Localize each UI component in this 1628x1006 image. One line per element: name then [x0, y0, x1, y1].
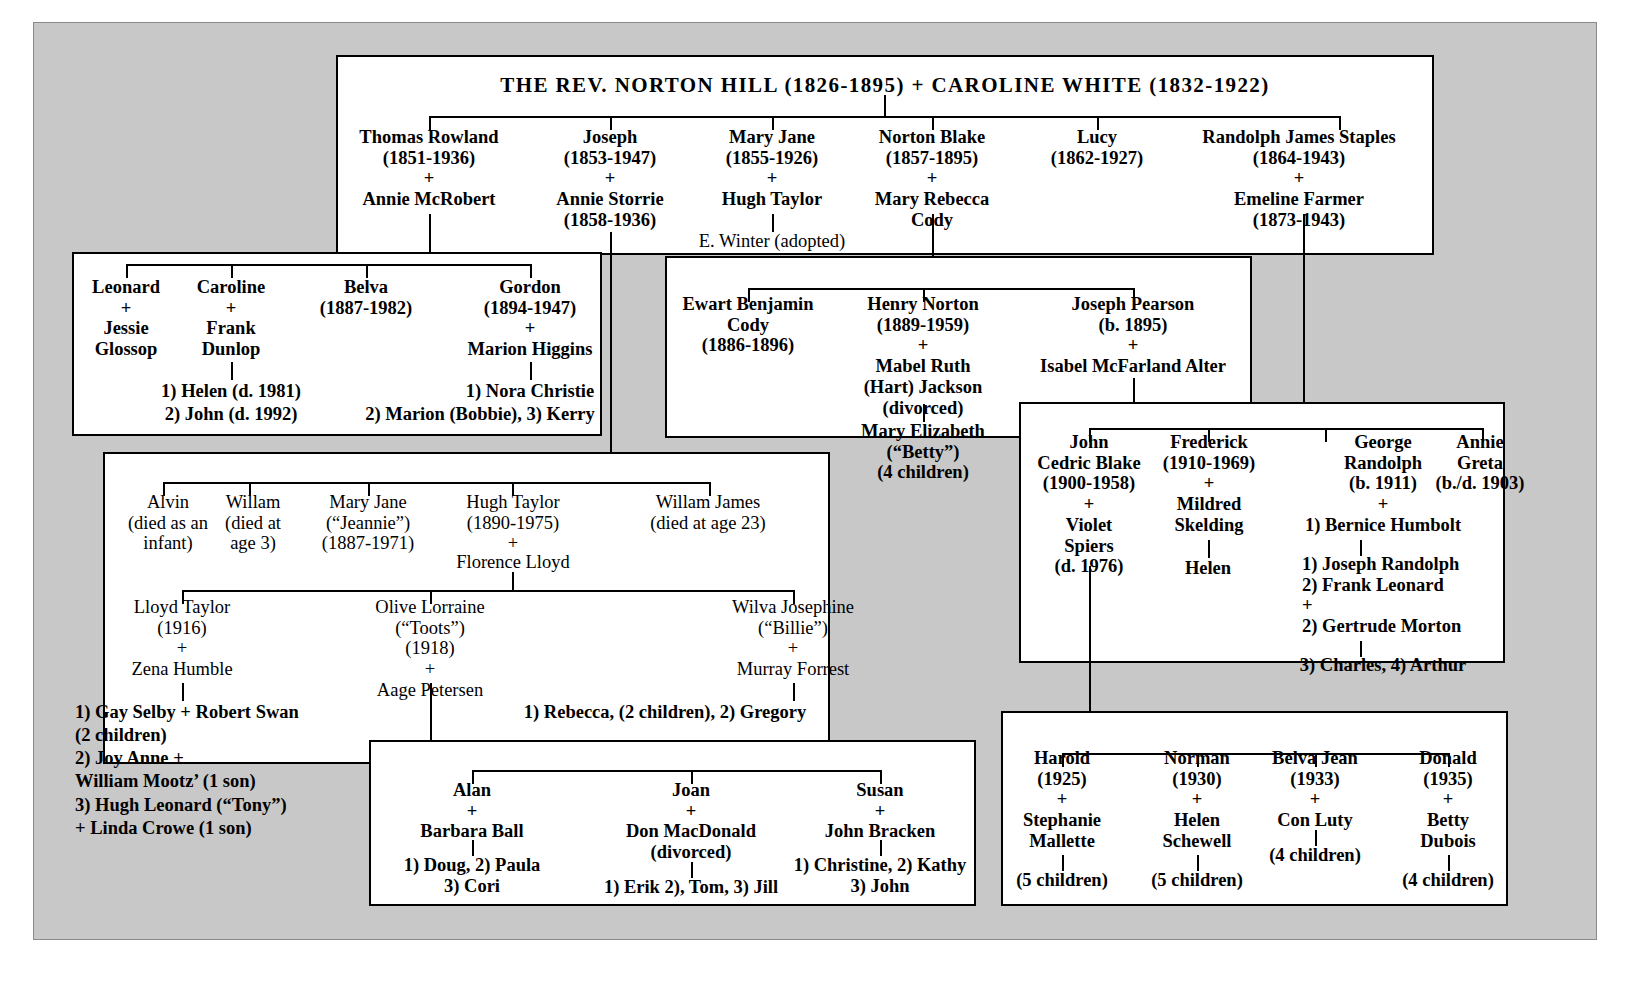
node-lucy: Lucy (1862-1927) — [1027, 127, 1167, 168]
connector-tick-belva — [366, 264, 368, 278]
node-annie-greta: Annie Greta (b./d. 1903) — [1400, 432, 1560, 494]
connector-nortonblake-descent — [932, 214, 934, 258]
connector-joan-children — [691, 862, 693, 878]
connector-jp-children-bar — [1089, 428, 1482, 430]
connector-donald-children — [1448, 855, 1450, 871]
node-joseph: Joseph (1853-1947) + Annie Storrie (1858… — [540, 127, 680, 231]
node-joan: Joan + Don MacDonald (divorced) — [601, 780, 781, 863]
node-willam: Willam (died at age 3) — [205, 492, 301, 554]
node-harold-children: (5 children) — [992, 870, 1132, 891]
node-caroline-child-1: 1) Helen (d. 1981) — [131, 381, 331, 402]
node-caroline: Caroline + Frank Dunlop — [171, 277, 291, 360]
connector-gen1-drop — [884, 95, 886, 117]
connector-nb-children-bar — [748, 288, 1133, 290]
node-willam-james: Willam James (died at age 23) — [617, 492, 799, 533]
node-joseph-pearson: Joseph Pearson (b. 1895) + Isabel McFarl… — [1022, 294, 1244, 377]
genealogy-chart-page: THE REV. NORTON HILL (1826-1895) + CAROL… — [0, 0, 1628, 1006]
connector-gen2-bar — [429, 116, 1339, 118]
connector-harold-children — [1062, 855, 1064, 871]
node-wilva-children: 1) Rebecca, (2 children), 2) Gregory — [500, 702, 830, 723]
node-e-winter-adopted: E. Winter (adopted) — [672, 231, 872, 252]
node-belva: Belva (1887-1982) — [296, 277, 436, 318]
connector-susan-children — [880, 840, 882, 856]
node-mary-elizabeth-betty: Mary Elizabeth (“Betty”) (4 children) — [853, 421, 993, 483]
node-mary-jane: Mary Jane (1855-1926) + Hugh Taylor — [702, 127, 842, 210]
node-leonard: Leonard + Jessie Glossop — [66, 277, 186, 360]
node-donald: Donald (1935) + Betty Dubois — [1388, 748, 1508, 852]
node-mary-jane-jeannie: Mary Jane (“Jeannie”) (1887-1971) — [300, 492, 436, 554]
node-frederick-child-helen: Helen — [1148, 558, 1268, 579]
connector-thomas-children-bar — [126, 264, 532, 266]
node-frederick: Frederick (1910-1969) + Mildred Skelding — [1145, 432, 1273, 536]
node-gordon: Gordon (1894-1947) + Marion Higgins — [452, 277, 608, 360]
node-ewart-benjamin-cody: Ewart Benjamin Cody (1886-1896) — [668, 294, 828, 356]
connector-belvajean-children — [1315, 830, 1317, 846]
node-randolph-james-staples: Randolph James Staples (1864-1943) + Eme… — [1184, 127, 1414, 231]
connector-hughtaylor-descent — [512, 572, 514, 590]
connector-olive-children-bar — [472, 770, 880, 772]
node-lloyd-children: 1) Gay Selby + Robert Swan (2 children) … — [60, 701, 400, 840]
node-gordon-child-1: 1) Nora Christie — [430, 381, 630, 402]
node-harold: Harold (1925) + Stephanie Mallette — [1002, 748, 1122, 852]
connector-joseph-to-maryjane-box — [610, 258, 612, 458]
node-thomas-rowland: Thomas Rowland (1851-1936) + Annie McRob… — [339, 127, 519, 210]
node-norman-children: (5 children) — [1127, 870, 1267, 891]
connector-tick-caroline — [231, 264, 233, 278]
connector-randolph-descent — [1303, 214, 1305, 408]
node-belvajean-children: (4 children) — [1245, 845, 1385, 866]
connector-joseph-descent — [610, 232, 612, 258]
connector-frederick-child — [1208, 540, 1210, 558]
node-george-children: 1) Joseph Randolph 2) Frank Leonard + 2)… — [1258, 554, 1508, 637]
connector-alan-children — [472, 840, 474, 856]
connector-tick-gordon — [530, 264, 532, 278]
connector-maryjane-descent — [772, 214, 774, 232]
node-belva-jean: Belva Jean (1933) + Con Luty — [1250, 748, 1380, 831]
node-hugh-taylor: Hugh Taylor (1890-1975) + — [443, 492, 583, 554]
connector-norman-children — [1197, 855, 1199, 871]
connector-gordon-children — [530, 362, 532, 380]
node-caroline-child-2: 2) John (d. 1992) — [131, 404, 331, 425]
node-gordon-child-2: 2) Marion (Bobbie), 3) Kerry — [330, 404, 630, 425]
connector-mj-children-bar — [163, 482, 709, 484]
node-lloyd-taylor: Lloyd Taylor (1916) + Zena Humble — [112, 597, 252, 680]
node-john-cedric-blake: John Cedric Blake (1900-1958) + Violet S… — [1024, 432, 1154, 577]
connector-caroline-children — [231, 362, 233, 380]
node-alan: Alan + Barbara Ball — [402, 780, 542, 842]
connector-john-descent — [1089, 566, 1091, 711]
node-george-children-2: 3) Charles, 4) Arthur — [1258, 655, 1508, 676]
connector-henry-child — [923, 404, 925, 422]
node-susan-children: 1) Christine, 2) Kathy 3) John — [772, 855, 988, 896]
node-norman: Norman (1930) + Helen Schewell — [1137, 748, 1257, 852]
node-wilva-josephine-billie: Wilva Josephine (“Billie”) + Murray Forr… — [710, 597, 876, 680]
node-henry-norton: Henry Norton (1889-1959) + Mabel Ruth (H… — [853, 294, 993, 418]
node-susan: Susan + John Bracken — [800, 780, 960, 842]
node-florence-lloyd: Florence Lloyd — [443, 552, 583, 573]
connector-lloyd-children — [182, 683, 184, 701]
node-alan-children: 1) Doug, 2) Paula 3) Cori — [382, 855, 562, 896]
connector-wilva-children — [793, 683, 795, 701]
connector-tick-leonard — [126, 264, 128, 278]
node-donald-children: (4 children) — [1378, 870, 1518, 891]
connector-hughtaylor-children-bar — [182, 590, 793, 592]
